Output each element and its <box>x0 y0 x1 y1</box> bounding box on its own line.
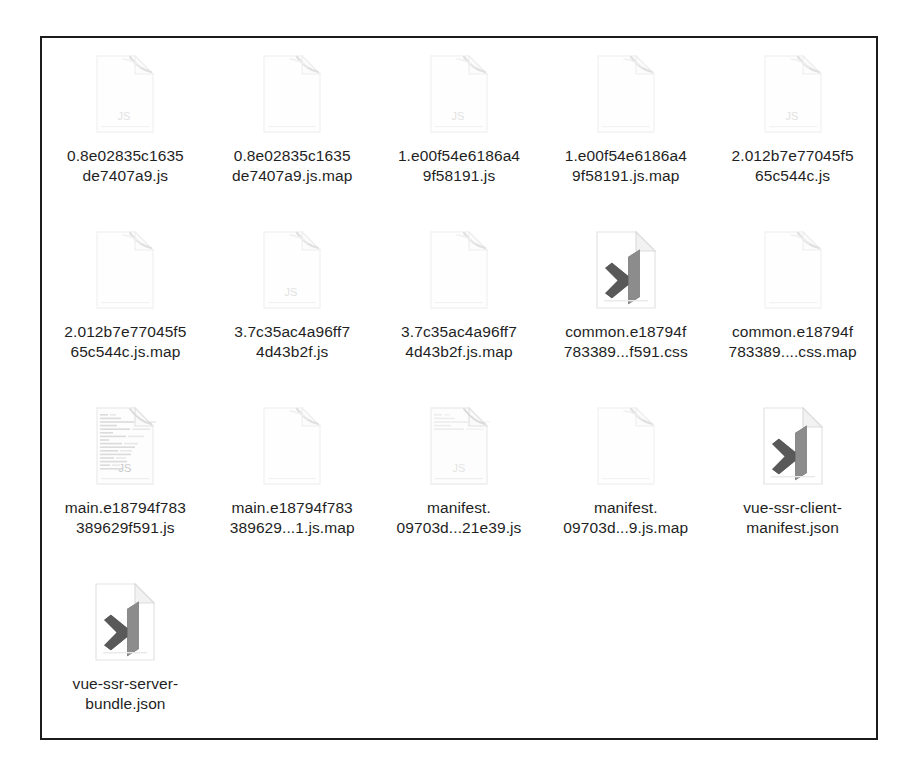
file-item[interactable]: JS 0.8e02835c1635 de7407a9.js <box>42 42 209 218</box>
js-file-thumbnail-icon[interactable]: JS <box>422 400 496 492</box>
file-name-label: 1.e00f54e6186a4 9f58191.js <box>384 146 534 186</box>
svg-text:JS: JS <box>285 286 298 298</box>
file-item[interactable]: JS main.e18794f783 389629f591.js <box>42 394 209 570</box>
file-name-label: 0.8e02835c1635 de7407a9.js.map <box>217 146 367 186</box>
file-name-label: 1.e00f54e6186a4 9f58191.js.map <box>551 146 701 186</box>
blank-file-icon <box>593 406 659 486</box>
file-item[interactable]: JS 2.012b7e77045f5 65c544c.js <box>709 42 876 218</box>
js-file-icon: JS <box>92 54 158 134</box>
blank-file-icon[interactable] <box>422 224 496 316</box>
file-item[interactable]: JS manifest. 09703d...21e39.js <box>376 394 543 570</box>
svg-text:JS: JS <box>785 110 798 122</box>
file-item[interactable]: manifest. 09703d...9.js.map <box>542 394 709 570</box>
file-name-label: vue-ssr-client- manifest.json <box>718 498 868 538</box>
file-name-label: main.e18794f783 389629f591.js <box>50 498 200 538</box>
file-item[interactable]: 1.e00f54e6186a4 9f58191.js.map <box>542 42 709 218</box>
file-name-label: 0.8e02835c1635 de7407a9.js <box>50 146 200 186</box>
file-item[interactable]: vue-ssr-client- manifest.json <box>709 394 876 570</box>
js-file-icon[interactable]: JS <box>255 224 329 316</box>
blank-file-icon <box>760 230 826 310</box>
vscode-file-icon[interactable] <box>589 224 663 316</box>
file-item[interactable]: 2.012b7e77045f5 65c544c.js.map <box>42 218 209 394</box>
js-file-icon: JS <box>426 54 492 134</box>
file-item[interactable]: 3.7c35ac4a96ff7 4d43b2f.js.map <box>376 218 543 394</box>
file-item[interactable]: common.e18794f 783389....css.map <box>709 218 876 394</box>
file-name-label: 2.012b7e77045f5 65c544c.js.map <box>50 322 200 362</box>
vscode-file-icon <box>760 406 826 486</box>
svg-text:JS: JS <box>119 462 132 474</box>
svg-text:JS: JS <box>118 110 131 122</box>
blank-file-icon <box>259 406 325 486</box>
js-file-icon[interactable]: JS <box>756 48 830 140</box>
file-name-label: manifest. 09703d...21e39.js <box>384 498 534 538</box>
file-name-label: vue-ssr-server- bundle.json <box>50 674 200 714</box>
blank-file-icon[interactable] <box>88 224 162 316</box>
file-explorer-canvas[interactable]: JS 0.8e02835c1635 de7407a9.js 0.8e02835c… <box>40 36 878 740</box>
blank-file-icon <box>259 54 325 134</box>
file-name-label: 3.7c35ac4a96ff7 4d43b2f.js.map <box>384 322 534 362</box>
vscode-file-icon <box>593 230 659 310</box>
file-name-label: 2.012b7e77045f5 65c544c.js <box>718 146 868 186</box>
vscode-file-icon[interactable] <box>88 576 162 668</box>
file-item[interactable]: JS 3.7c35ac4a96ff7 4d43b2f.js <box>209 218 376 394</box>
file-item[interactable]: 0.8e02835c1635 de7407a9.js.map <box>209 42 376 218</box>
js-file-icon[interactable]: JS <box>88 48 162 140</box>
js-file-thumbnail-icon[interactable]: JS <box>88 400 162 492</box>
js-file-thumbnail-icon: JS <box>92 406 158 486</box>
js-file-icon: JS <box>259 230 325 310</box>
blank-file-icon[interactable] <box>255 48 329 140</box>
js-file-icon: JS <box>760 54 826 134</box>
file-name-label: common.e18794f 783389...f591.css <box>551 322 701 362</box>
file-item[interactable]: common.e18794f 783389...f591.css <box>542 218 709 394</box>
blank-file-icon[interactable] <box>589 48 663 140</box>
file-name-label: 3.7c35ac4a96ff7 4d43b2f.js <box>217 322 367 362</box>
js-file-thumbnail-icon: JS <box>426 406 492 486</box>
vscode-file-icon <box>92 582 158 662</box>
file-item[interactable]: main.e18794f783 389629...1.js.map <box>209 394 376 570</box>
js-file-icon[interactable]: JS <box>422 48 496 140</box>
svg-text:JS: JS <box>452 110 465 122</box>
file-icon-grid: JS 0.8e02835c1635 de7407a9.js 0.8e02835c… <box>42 38 876 740</box>
file-item[interactable]: JS 1.e00f54e6186a4 9f58191.js <box>376 42 543 218</box>
blank-file-icon <box>593 54 659 134</box>
vscode-file-icon[interactable] <box>756 400 830 492</box>
file-name-label: main.e18794f783 389629...1.js.map <box>217 498 367 538</box>
file-name-label: manifest. 09703d...9.js.map <box>551 498 701 538</box>
file-name-label: common.e18794f 783389....css.map <box>718 322 868 362</box>
blank-file-icon <box>92 230 158 310</box>
blank-file-icon[interactable] <box>589 400 663 492</box>
blank-file-icon[interactable] <box>255 400 329 492</box>
blank-file-icon[interactable] <box>756 224 830 316</box>
file-item[interactable]: vue-ssr-server- bundle.json <box>42 570 209 740</box>
blank-file-icon <box>426 230 492 310</box>
svg-text:JS: JS <box>453 462 466 474</box>
